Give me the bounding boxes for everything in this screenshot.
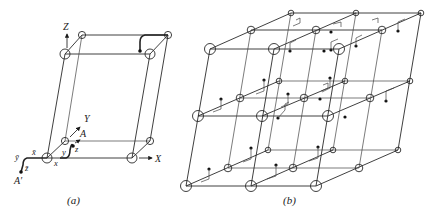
atom-a-prime [19,170,23,174]
basis-bond-top [140,35,168,51]
coord-x-bar-label: x̄ [31,147,37,157]
point-a-label: A [79,128,87,139]
y-axis-arrow [70,127,80,137]
unit-cell-edges [47,35,168,158]
point-a-prime-label: A′ [13,175,23,186]
x-axis-label: X [154,153,162,164]
coord-z-bar-label: z̄ [24,163,29,173]
coord-x-label: x [53,158,58,168]
y-axis-label: Y [84,113,91,124]
coord-y-label: y [61,147,66,157]
crystal-lattice-figure: Z Y X A x y z A′ x̄ ȳ z̄ (a) [0,0,433,219]
basis-atoms [201,18,405,182]
diagram-b-lattice: (b) [181,10,424,207]
caption-a: (a) [67,194,80,207]
diagram-a-unit-cell: Z Y X A x y z A′ x̄ ȳ z̄ (a) [13,21,172,207]
caption-b: (b) [283,194,296,207]
z-axis-label: Z [63,21,69,32]
coord-y-bar-label: ȳ [14,152,19,162]
coord-z-label: z [74,144,79,154]
